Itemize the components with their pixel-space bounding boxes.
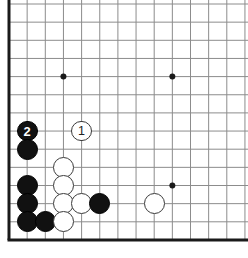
grid-lines bbox=[9, 0, 248, 240]
white-stone[interactable] bbox=[53, 211, 74, 232]
move-number-label: 2 bbox=[24, 125, 31, 138]
move-number-label: 1 bbox=[78, 125, 85, 138]
black-stone[interactable] bbox=[17, 139, 38, 160]
white-stone[interactable] bbox=[144, 193, 165, 214]
star-point-upper-right bbox=[169, 74, 175, 80]
star-point-lower-right bbox=[169, 183, 175, 189]
star-point-upper-left bbox=[60, 74, 66, 80]
go-board-diagram: 21 bbox=[0, 0, 248, 258]
